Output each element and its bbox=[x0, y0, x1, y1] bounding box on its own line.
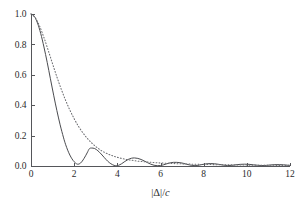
chart-background bbox=[0, 0, 307, 209]
x-tick-label: 8 bbox=[201, 169, 206, 179]
x-axis-title: |Δ|/c bbox=[151, 187, 170, 198]
x-tick-label: 12 bbox=[285, 169, 295, 179]
x-tick-label: 10 bbox=[242, 169, 252, 179]
x-tick-label: 6 bbox=[158, 169, 163, 179]
x-tick-label: 4 bbox=[115, 169, 120, 179]
x-tick-label: 2 bbox=[72, 169, 77, 179]
chart-plot-area: 0246810120.00.20.40.60.81.0 |Δ|/c bbox=[0, 0, 307, 209]
x-tick-label: 0 bbox=[29, 169, 34, 179]
y-tick-label: 0.0 bbox=[15, 161, 27, 171]
y-tick-label: 0.2 bbox=[15, 131, 27, 141]
y-tick-label: 0.6 bbox=[15, 70, 27, 80]
chart-figure: 0246810120.00.20.40.60.81.0 |Δ|/c bbox=[0, 0, 307, 209]
y-tick-label: 0.8 bbox=[15, 40, 27, 50]
y-tick-label: 1.0 bbox=[15, 9, 27, 19]
y-tick-label: 0.4 bbox=[15, 100, 27, 110]
